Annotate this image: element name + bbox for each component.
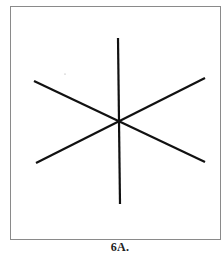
- stray-dot: [64, 73, 65, 74]
- asterisk-lines: [34, 38, 205, 204]
- asterisk-diagram: [0, 0, 224, 253]
- figure-caption: 6A.: [0, 240, 224, 253]
